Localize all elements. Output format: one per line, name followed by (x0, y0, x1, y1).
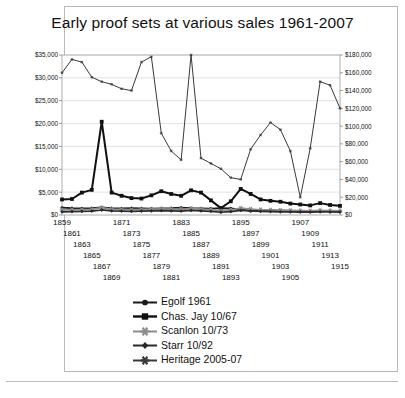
data-point (269, 199, 273, 203)
x-axis-tick: 1903 (271, 262, 289, 271)
x-axis-tick: 1893 (222, 273, 240, 282)
y-axis-tick-right: $60,000 (345, 158, 369, 165)
data-point (229, 199, 233, 203)
data-point (149, 193, 153, 197)
legend-label: Starr 10/92 (158, 339, 213, 351)
data-point (298, 203, 302, 207)
data-point (259, 198, 263, 202)
legend-label: Egolf 1961 (158, 295, 211, 307)
x-axis-tick: 1915 (331, 262, 349, 271)
data-point (130, 196, 134, 200)
x-axis-tick: 1873 (123, 229, 141, 238)
legend-item[interactable]: Chas. Jay 10/67 (132, 309, 242, 324)
legend-label: Chas. Jay 10/67 (158, 310, 237, 322)
star-marker-icon (132, 324, 158, 337)
data-point (189, 188, 193, 192)
data-point (90, 188, 94, 192)
x-axis-tick: 1867 (93, 262, 111, 271)
legend-item[interactable]: Heritage 2005-07 (132, 352, 242, 367)
y-axis-tick-right: $180,000 (345, 51, 372, 58)
data-point (140, 197, 144, 201)
y-axis-tick-left: $35,000 (35, 51, 59, 58)
x-axis-tick: 1897 (242, 229, 260, 238)
data-point (159, 189, 163, 193)
legend-item[interactable]: Starr 10/92 (132, 338, 242, 353)
x-axis-tick: 1875 (132, 240, 150, 249)
x-axis-tick: 1899 (252, 240, 270, 249)
x-axis-tick: 1865 (83, 251, 101, 260)
y-axis-tick-right: $140,000 (345, 87, 372, 94)
plot-area: $0$5,000$10,000$15,000$20,000$25,000$30,… (0, 44, 405, 224)
x-axis-tick: 1891 (212, 262, 230, 271)
circle-marker-icon (132, 295, 158, 308)
y-axis-tick-right: $20,000 (345, 194, 369, 201)
data-point (308, 204, 312, 208)
chart-title: Early proof sets at various sales 1961-2… (0, 14, 405, 32)
data-point (169, 192, 173, 196)
data-point (338, 204, 342, 208)
legend-item[interactable]: Scanlon 10/73 (132, 323, 242, 338)
y-axis-tick-right: $160,000 (345, 69, 372, 76)
y-axis-tick-right: $120,000 (345, 105, 372, 112)
x-axis-tick: 1859 (53, 218, 71, 227)
x-axis-tick: 1869 (103, 273, 121, 282)
x-axis-tick: 1905 (281, 273, 299, 282)
y-axis-tick-left: $25,000 (35, 97, 59, 104)
plot-svg: $0$5,000$10,000$15,000$20,000$25,000$30,… (0, 44, 405, 224)
y-axis-tick-left: $10,000 (35, 166, 59, 173)
legend-label: Scanlon 10/73 (158, 324, 228, 336)
x-axis-tick: 1889 (202, 251, 220, 260)
data-point (110, 191, 114, 195)
x-axis-tick: 1913 (321, 251, 339, 260)
y-axis-tick-left: $20,000 (35, 120, 59, 127)
data-point (100, 120, 104, 124)
data-point (199, 191, 203, 195)
data-point (142, 342, 149, 349)
x-axis-tick: 1861 (63, 229, 81, 238)
data-point (328, 203, 332, 207)
y-axis-tick-right: $80,000 (345, 140, 369, 147)
x-axis-labels: 1859186118631865186718691871187318751877… (0, 218, 405, 288)
data-point (318, 201, 322, 205)
chart-legend: Egolf 1961Chas. Jay 10/67Scanlon 10/73St… (132, 294, 242, 367)
x-axis-tick: 1911 (311, 240, 328, 249)
square-marker-icon (132, 309, 158, 322)
x-axis-tick: 1881 (162, 273, 180, 282)
data-point (249, 192, 253, 196)
x-axis-tick: 1885 (182, 229, 200, 238)
y-axis-tick-left: $5,000 (38, 189, 58, 196)
legend-label: Heritage 2005-07 (158, 353, 242, 365)
x-axis-tick: 1871 (113, 218, 131, 227)
x-axis-tick: 1895 (232, 218, 250, 227)
x-axis-tick: 1863 (73, 240, 91, 249)
data-point (60, 198, 64, 202)
data-point (209, 198, 213, 202)
x-axis-tick: 1907 (291, 218, 309, 227)
x-axis-tick: 1883 (172, 218, 190, 227)
data-point (279, 200, 283, 204)
x-axis-tick: 1901 (262, 251, 280, 260)
asterisk-marker-icon (132, 353, 158, 366)
y-axis-tick-left: $15,000 (35, 143, 59, 150)
legend-item[interactable]: Egolf 1961 (132, 294, 242, 309)
y-axis-tick-right: $100,000 (345, 123, 372, 130)
x-axis-tick: 1879 (152, 262, 170, 271)
data-point (179, 194, 183, 198)
data-point (142, 314, 148, 320)
data-point (288, 202, 292, 206)
diamond-marker-icon (132, 338, 158, 351)
data-point (120, 194, 124, 198)
data-point (80, 191, 84, 195)
data-point (70, 197, 74, 201)
bottom-divider (6, 381, 398, 382)
x-axis-tick: 1887 (192, 240, 210, 249)
x-axis-tick: 1877 (142, 251, 160, 260)
y-axis-tick-right: $40,000 (345, 176, 369, 183)
y-axis-tick-left: $30,000 (35, 74, 59, 81)
chart-screenshot: Early proof sets at various sales 1961-2… (0, 0, 405, 398)
x-axis-tick: 1909 (301, 229, 319, 238)
data-point (142, 299, 148, 305)
data-point (239, 187, 243, 191)
